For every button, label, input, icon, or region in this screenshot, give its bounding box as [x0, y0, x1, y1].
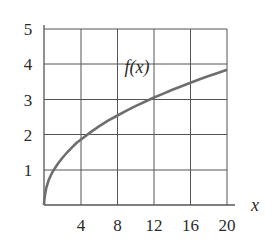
y-tick-label: 1 — [24, 161, 33, 180]
x-tick-label: 20 — [219, 216, 236, 235]
y-tick-label: 4 — [24, 55, 33, 74]
curve-f-of-x — [44, 70, 227, 205]
chart: 5 4 3 2 1 4 8 12 16 20 x f(x) — [0, 0, 271, 241]
x-tick-label: 16 — [182, 216, 199, 235]
x-tick-labels: 4 8 12 16 20 — [77, 216, 236, 235]
gridlines — [44, 29, 227, 205]
x-tick-label: 8 — [113, 216, 122, 235]
y-tick-label: 3 — [24, 91, 33, 110]
curve-label: f(x) — [125, 57, 150, 78]
y-tick-labels: 5 4 3 2 1 — [24, 20, 33, 180]
axes — [44, 25, 235, 205]
y-tick-label: 2 — [24, 126, 33, 145]
x-axis-label: x — [250, 195, 259, 215]
y-tick-label: 5 — [24, 20, 33, 39]
x-tick-label: 12 — [146, 216, 163, 235]
x-tick-label: 4 — [77, 216, 86, 235]
